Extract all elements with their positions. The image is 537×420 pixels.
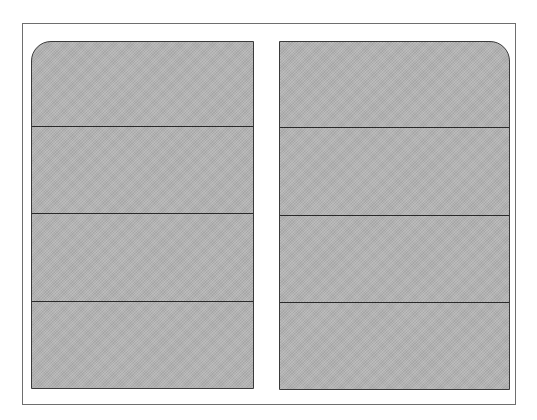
left-section-1 [32,42,253,127]
left-divider-2 [32,213,253,214]
right-section-4 [280,304,509,390]
left-divider-3 [32,301,253,302]
right-divider-1 [280,127,509,128]
left-panel [31,41,254,389]
right-divider-3 [280,302,509,303]
right-panel [279,41,510,390]
left-section-3 [32,215,253,301]
right-section-1 [280,42,509,128]
left-section-2 [32,128,253,213]
left-section-4 [32,303,253,389]
left-divider-1 [32,126,253,127]
right-section-2 [280,129,509,215]
right-divider-2 [280,215,509,216]
right-section-3 [280,217,509,303]
